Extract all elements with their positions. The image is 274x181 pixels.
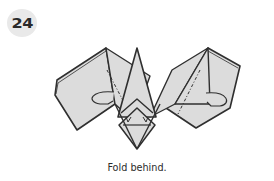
step-caption: Fold behind. [11,161,263,173]
origami-diagram [0,0,274,181]
right-wing [150,48,240,128]
